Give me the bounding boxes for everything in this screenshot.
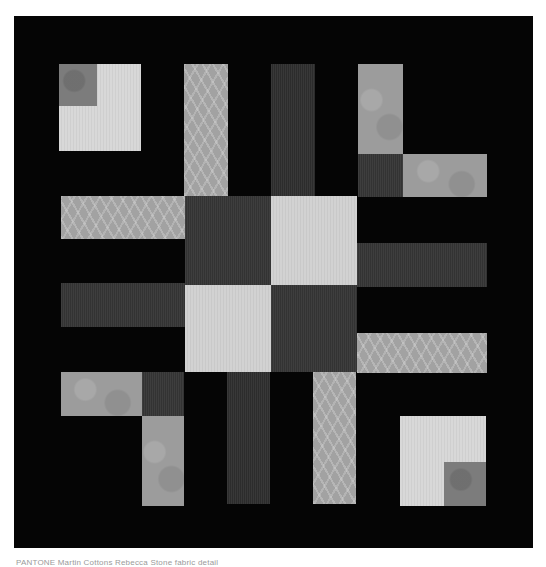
center-four-patch-bottom-left	[185, 285, 271, 372]
right-row-bottom-swirl	[357, 333, 487, 373]
bottom-right-corner-inner-square	[444, 462, 486, 506]
image-caption: PANTONE Martin Cottons Rebecca Stone fab…	[16, 558, 218, 567]
bottom-left-L-corner-dark	[142, 372, 184, 416]
bottom-stripe-center-dark	[227, 372, 270, 504]
bottom-stripe-right-swirl	[313, 372, 356, 504]
top-stripe-center-dark	[271, 64, 315, 196]
left-row-middle-dark	[61, 283, 185, 327]
top-right-L-corner-dark	[358, 154, 403, 197]
top-right-L-vertical	[358, 64, 403, 154]
center-four-patch-bottom-right	[271, 285, 357, 372]
top-right-L-horizontal	[403, 154, 487, 197]
top-stripe-left-swirl	[184, 64, 228, 196]
quilt-block	[14, 16, 533, 548]
left-row-top-swirl	[61, 196, 185, 239]
bottom-left-L-vertical	[142, 416, 184, 506]
bottom-left-L-horizontal	[61, 372, 142, 416]
center-four-patch-top-right	[271, 196, 357, 285]
center-four-patch-top-left	[185, 196, 271, 285]
top-left-corner-inner-square	[59, 64, 97, 106]
right-row-middle-dark	[357, 243, 487, 287]
